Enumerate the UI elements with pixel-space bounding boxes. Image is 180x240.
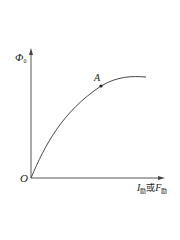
origin-text: O	[20, 172, 28, 184]
y-axis	[29, 48, 33, 178]
point-a-marker	[99, 84, 102, 87]
x-axis-arrow-icon	[158, 176, 165, 180]
x-axis-label: I励或F励	[137, 181, 167, 195]
x-axis-label-connector: 或	[146, 183, 155, 193]
magnetization-curve	[31, 77, 146, 178]
y-axis-label-sub: 0	[23, 58, 26, 64]
x-axis-label-sub2: 励	[161, 188, 167, 194]
y-axis-label: Φ0	[15, 51, 26, 64]
y-axis-arrow-icon	[29, 48, 33, 55]
origin-label: O	[20, 172, 28, 184]
x-axis	[31, 176, 165, 180]
point-a-label: A	[94, 72, 100, 83]
point-a-text: A	[94, 72, 100, 83]
